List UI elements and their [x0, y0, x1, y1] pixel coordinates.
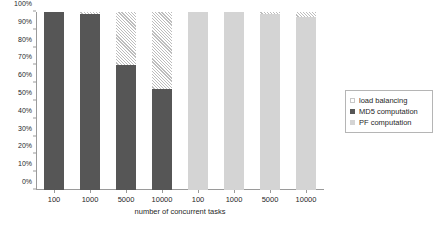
bar-stack — [260, 12, 279, 190]
chart-legend: load balancing MD5 computation PF comput… — [345, 90, 433, 133]
stacked-bar-chart: 0%10%20%30%40%50%60%70%80%90%100% 100100… — [0, 0, 441, 226]
y-axis-tick-label: 30% — [18, 125, 32, 133]
bar-column — [116, 12, 135, 190]
x-axis-tick-mark — [126, 190, 127, 193]
y-axis-tick-label: 80% — [18, 36, 32, 44]
legend-item-load-balancing: load balancing — [350, 95, 428, 106]
x-axis-tick-mark — [270, 190, 271, 193]
legend-item-md5-computation: MD5 computation — [350, 106, 428, 117]
bar-stack — [44, 12, 63, 190]
x-axis-tick-mark — [54, 190, 55, 193]
y-axis-tick-label: 0% — [22, 178, 32, 186]
bar-column — [152, 12, 171, 190]
x-axis-tick-mark — [306, 190, 307, 193]
x-axis-tick-mark — [162, 190, 163, 193]
x-axis-tick-label: 10000 — [152, 195, 173, 204]
bar-segment-load-balancing — [116, 12, 135, 65]
y-axis-tick-label: 40% — [18, 107, 32, 115]
x-axis-tick-label: 1000 — [226, 195, 243, 204]
bar-segment-pf — [296, 17, 315, 190]
bar-stack — [80, 12, 99, 190]
x-axis-tick-label: 1000 — [82, 195, 99, 204]
legend-label-load-balancing: load balancing — [359, 96, 407, 105]
bar-stack — [152, 12, 171, 190]
legend-swatch-icon-md5-computation — [350, 109, 355, 114]
bar-stack — [188, 12, 207, 190]
x-axis-tick-label: 100 — [192, 195, 205, 204]
x-axis-tick-mark — [234, 190, 235, 193]
y-axis-tick-label: 100% — [14, 0, 32, 8]
x-axis-tick-label: 100 — [48, 195, 61, 204]
legend-swatch-icon-pf-computation — [350, 120, 355, 125]
bar-column — [44, 12, 63, 190]
bar-stack — [224, 12, 243, 190]
bar-column — [80, 12, 99, 190]
legend-swatch-icon-load-balancing — [350, 98, 355, 103]
x-axis-tick-mark — [198, 190, 199, 193]
bar-segment-md5 — [116, 65, 135, 190]
x-axis-tick-mark — [90, 190, 91, 193]
legend-item-pf-computation: PF computation — [350, 117, 428, 128]
bar-stack — [116, 12, 135, 190]
legend-label-pf-computation: PF computation — [359, 118, 412, 127]
bar-segment-md5 — [44, 12, 63, 190]
bar-segment-pf — [188, 12, 207, 190]
bar-column — [296, 12, 315, 190]
bars-layer — [36, 12, 324, 190]
bar-segment-pf — [260, 14, 279, 190]
bar-segment-load-balancing — [260, 12, 279, 14]
legend-label-md5-computation: MD5 computation — [359, 107, 418, 116]
y-axis-tick-label: 20% — [18, 142, 32, 150]
y-axis-tick-label: 10% — [18, 160, 32, 168]
bar-segment-load-balancing — [80, 12, 99, 14]
bar-segment-md5 — [80, 14, 99, 190]
bar-segment-load-balancing — [152, 12, 171, 89]
y-axis-tick-label: 60% — [18, 71, 32, 79]
bar-segment-pf — [224, 12, 243, 190]
y-axis-tick-label: 90% — [18, 18, 32, 26]
x-axis-title: number of concurrent tasks — [36, 207, 324, 217]
bar-segment-md5 — [152, 89, 171, 190]
y-axis-tick-label: 50% — [18, 89, 32, 97]
bar-column — [224, 12, 243, 190]
x-axis-tick-label: 5000 — [262, 195, 279, 204]
bar-stack — [296, 12, 315, 190]
x-axis-tick-label: 5000 — [118, 195, 135, 204]
bar-column — [260, 12, 279, 190]
plot-area: 0%10%20%30%40%50%60%70%80%90%100% 100100… — [36, 12, 324, 190]
bar-segment-load-balancing — [296, 12, 315, 17]
bar-column — [188, 12, 207, 190]
x-axis-tick-label: 10000 — [296, 195, 317, 204]
y-axis-tick-label: 70% — [18, 53, 32, 61]
